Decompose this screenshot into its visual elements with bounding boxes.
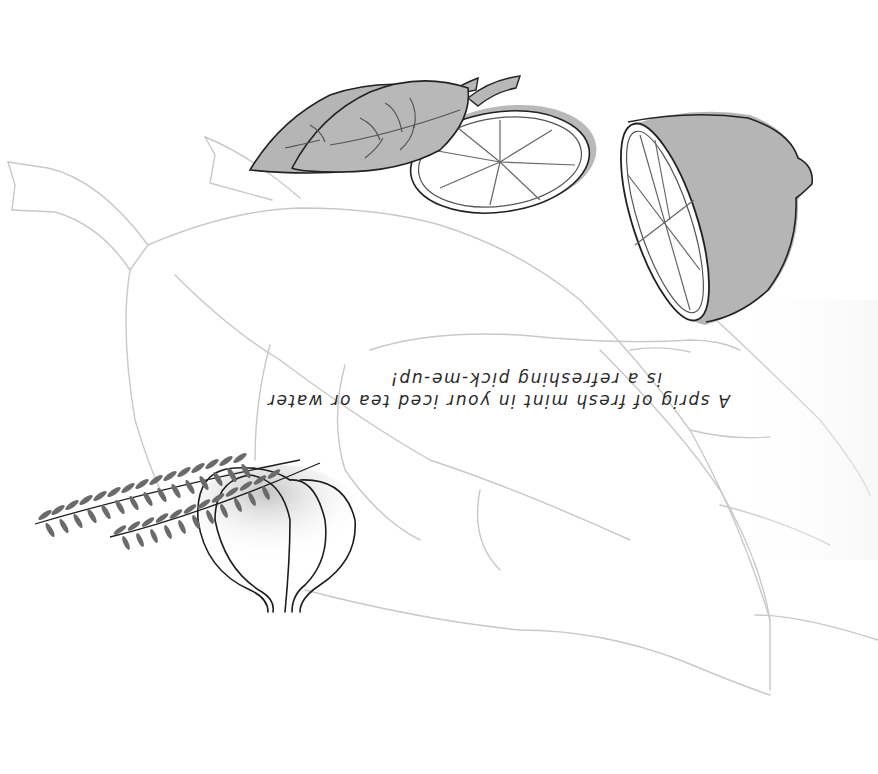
caption-line-2: is a refreshing pick-me-up! — [250, 368, 730, 390]
caption-line-1: A sprig of fresh mint in your iced tea o… — [250, 390, 730, 412]
coloring-page: A sprig of fresh mint in your iced tea o… — [0, 0, 878, 774]
garlic-bulb — [185, 465, 365, 612]
caption: A sprig of fresh mint in your iced tea o… — [250, 368, 730, 412]
lemon-half — [603, 112, 813, 330]
